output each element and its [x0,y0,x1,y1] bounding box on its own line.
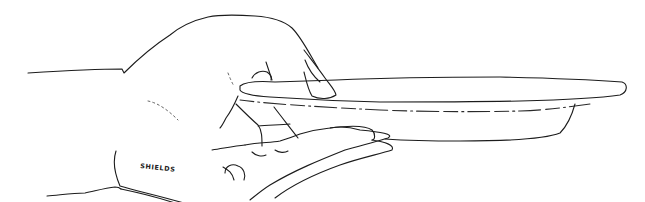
finger-crease-lower-1 [220,96,238,128]
finger-crease-lower-2 [236,104,262,146]
arm-upper-contour [28,15,318,73]
artist-signature: SHIELDS [140,162,176,174]
finger-crease-lower-4 [274,107,298,138]
palm-heel-contour [114,151,200,202]
finger-underside-2 [275,140,393,198]
palm-pad-crease [223,167,234,180]
knuckle-bump-2 [275,150,288,152]
wrist-mark [228,73,234,86]
thumb-nail [305,60,320,82]
back-of-hand-marks [148,101,178,120]
finger-underside-1 [250,127,390,200]
knuckle-line [212,145,245,150]
finger-crease [266,62,272,80]
hand-holding-plate-illustration: SHIELDS [0,0,645,202]
knuckle-bump-1 [252,152,266,156]
palm-bottom-contour [121,189,268,202]
thumb-contour [304,50,336,99]
arm-lower-contour [47,187,121,196]
finger-crease-lower-3 [258,124,290,126]
plate-top-rim [240,77,626,102]
palm-pad [225,165,245,180]
fingertip-top [252,71,271,80]
